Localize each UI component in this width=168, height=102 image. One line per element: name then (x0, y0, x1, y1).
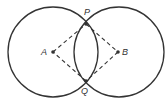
label-Q: Q (81, 86, 88, 96)
segment-BQ (86, 52, 118, 81)
point-Q (84, 79, 88, 83)
point-B (116, 50, 120, 54)
label-A: A (40, 47, 47, 57)
label-P: P (84, 7, 90, 17)
dashed-rhombus (53, 24, 118, 81)
label-B: B (122, 47, 128, 57)
point-P (84, 22, 88, 26)
segment-AP (53, 24, 86, 52)
geometry-diagram: A B P Q (0, 0, 168, 102)
point-A (51, 50, 55, 54)
